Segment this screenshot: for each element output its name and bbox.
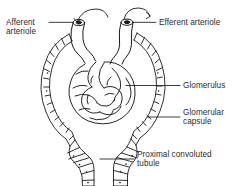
outflow-arrow	[124, 8, 150, 19]
proximal-tubule	[46, 72, 160, 186]
efferent-arteriole-vessel	[110, 19, 133, 64]
glomerular-capillary-tuft	[69, 62, 135, 124]
label-efferent-arteriole: Efferent arteriole	[159, 18, 220, 27]
label-proximal-convoluted-tubule: Proximal convoluted tubule	[137, 150, 212, 169]
inflow-arrow	[74, 9, 108, 22]
bowmans-capsule-wall	[41, 33, 165, 146]
figure-canvas: Afferent arteriole Efferent arteriole Gl…	[0, 0, 244, 186]
afferent-arteriole-vessel	[71, 20, 96, 64]
label-glomerular-capsule: Glomerular capsule	[183, 108, 224, 127]
label-afferent-arteriole: Afferent arteriole	[6, 18, 36, 37]
label-glomerulus: Glomerulus	[183, 81, 225, 90]
